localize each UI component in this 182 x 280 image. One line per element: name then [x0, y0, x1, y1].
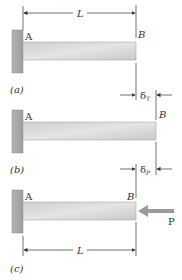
caption-b: (b) [10, 164, 24, 175]
beam-elongated [23, 122, 156, 140]
fixed-wall [12, 190, 23, 233]
panel-a: L A B (a) [10, 5, 145, 100]
beam [23, 202, 136, 220]
label-A: A [24, 31, 33, 42]
panel-c: L A B P (c) [10, 190, 175, 274]
label-B: B [158, 109, 166, 120]
force-label-P: P [168, 216, 175, 227]
caption-a: (a) [10, 84, 24, 95]
fixed-wall [12, 30, 23, 73]
delta-P-label: δP [140, 164, 151, 176]
label-A: A [24, 191, 33, 202]
label-B: B [126, 191, 134, 202]
label-B: B [137, 29, 145, 40]
caption-c: (c) [10, 263, 24, 274]
fixed-wall [12, 110, 23, 153]
dimension-label-L: L [76, 245, 84, 256]
dimension-label-L: L [76, 8, 84, 19]
beam [23, 42, 136, 60]
label-A: A [24, 111, 33, 122]
delta-T-label: δT [140, 90, 151, 102]
cantilever-bar-diagram: L A B (a) δT A B (b) δP L [0, 0, 182, 280]
